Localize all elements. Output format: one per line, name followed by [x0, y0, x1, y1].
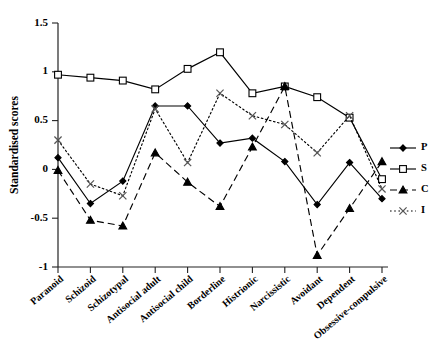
data-point-marker: [152, 86, 159, 93]
data-point-marker: [400, 145, 406, 151]
data-point-marker: [379, 176, 386, 183]
data-point-marker: [119, 77, 126, 84]
data-point-marker: [87, 74, 94, 81]
series-line-C: [58, 86, 382, 255]
data-series-layer: [54, 49, 386, 258]
data-point-marker: [216, 203, 224, 210]
y-tick-label: 1.5: [34, 16, 48, 28]
data-point-marker: [217, 49, 224, 56]
series-S: [55, 49, 386, 183]
y-tick-label: -0.5: [31, 211, 49, 223]
data-point-marker: [346, 205, 354, 212]
data-point-marker: [314, 94, 321, 101]
x-tick-label: Antisocial adult: [104, 273, 163, 325]
data-point-marker: [151, 149, 159, 156]
x-tick-label: Paranoid: [28, 273, 66, 307]
series-line-S: [58, 52, 382, 179]
y-tick-label: 0: [43, 162, 49, 174]
data-point-marker: [184, 65, 191, 72]
legend-label-C: C: [421, 183, 429, 194]
data-point-marker: [87, 216, 95, 223]
data-point-marker: [313, 251, 321, 258]
data-point-marker: [55, 71, 62, 78]
legend-label-P: P: [421, 141, 428, 152]
y-tick-label: -1: [39, 260, 48, 272]
data-point-marker: [249, 90, 256, 97]
line-chart: 1.510.50-0.5-1 Standardised scores Paran…: [0, 0, 448, 361]
legend-label-I: I: [421, 204, 425, 215]
legend-label-S: S: [421, 162, 427, 173]
data-point-marker: [249, 143, 257, 150]
x-axis-labels: ParanoidSchizoidSchizotypalAntisocial ad…: [28, 273, 390, 341]
series-P: [55, 103, 385, 208]
y-axis-ticks: 1.510.50-0.5-1: [31, 16, 58, 272]
y-axis-title: Standardised scores: [8, 96, 20, 194]
x-axis-ticks: [58, 267, 382, 273]
data-point-marker: [400, 166, 407, 173]
y-tick-label: 0.5: [34, 113, 48, 125]
y-tick-label: 1: [43, 64, 49, 76]
chart-canvas: 1.510.50-0.5-1 Standardised scores Paran…: [0, 0, 448, 361]
data-point-marker: [378, 158, 386, 165]
chart-legend: PSCI: [390, 141, 429, 215]
